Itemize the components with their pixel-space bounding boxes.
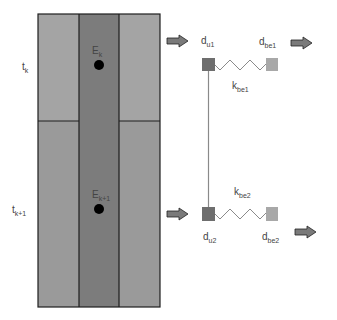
outer-right-top [119, 14, 160, 121]
spring-1 [215, 60, 266, 70]
label-du2: du2 [203, 231, 216, 244]
time-label-k1: tk+1 [12, 204, 26, 217]
node-square-u1 [202, 58, 215, 71]
outer-right-bottom [119, 121, 160, 307]
arrow-right-icon [167, 35, 188, 47]
label-kbe2: kbe2 [234, 186, 251, 199]
outer-left-top [38, 14, 79, 121]
label-dbe1: dbe1 [259, 36, 276, 49]
element-diagram: Ek Ek+1 tk tk+1 du1 dbe1 kbe1 kbe2 du2 d… [0, 0, 337, 320]
node-square-u2 [202, 207, 215, 221]
arrow-right-icon [295, 226, 316, 238]
arrow-right-icon [291, 37, 312, 49]
node-square-be1 [266, 58, 278, 71]
node-dot-k1 [94, 204, 104, 214]
label-dbe2: dbe2 [262, 231, 279, 244]
arrow-right-icon [167, 208, 188, 220]
time-label-k: tk [22, 61, 29, 74]
node-square-be2 [266, 207, 278, 221]
label-du1: du1 [201, 35, 214, 48]
label-kbe1: kbe1 [232, 80, 249, 93]
spring-2 [215, 209, 266, 219]
node-dot-k [94, 60, 104, 70]
outer-left-bottom [38, 121, 79, 307]
